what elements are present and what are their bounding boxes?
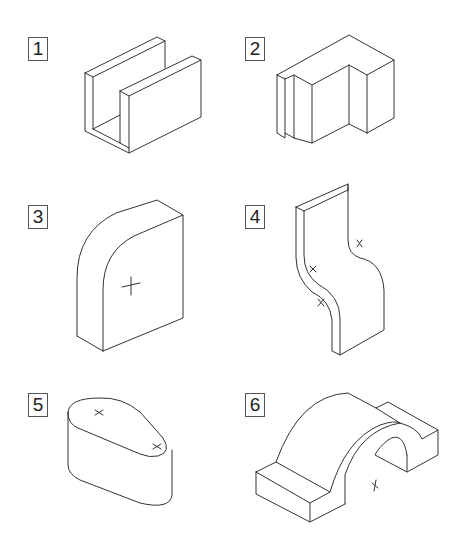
figure-6-arch-bridge [256,393,438,522]
figure-5-tapered-block [68,398,172,505]
figure-3-rounded-block [77,200,183,351]
figure-2-stepped-block [277,35,394,143]
isometric-drawings [0,0,464,546]
figure-4-s-plate [296,184,384,355]
figure-1-u-channel [85,37,201,153]
